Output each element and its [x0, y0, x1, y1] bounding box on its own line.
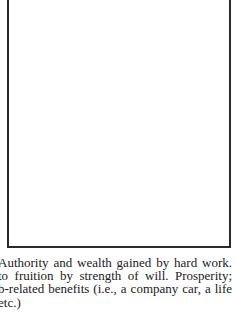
body-paragraph: Authority and wealth gained by hard work… [0, 256, 232, 309]
text-line-3: b-related benefits (i.e., a company car,… [0, 282, 232, 295]
figure-frame [7, 0, 231, 248]
text-line-4: etc.) [0, 296, 232, 309]
